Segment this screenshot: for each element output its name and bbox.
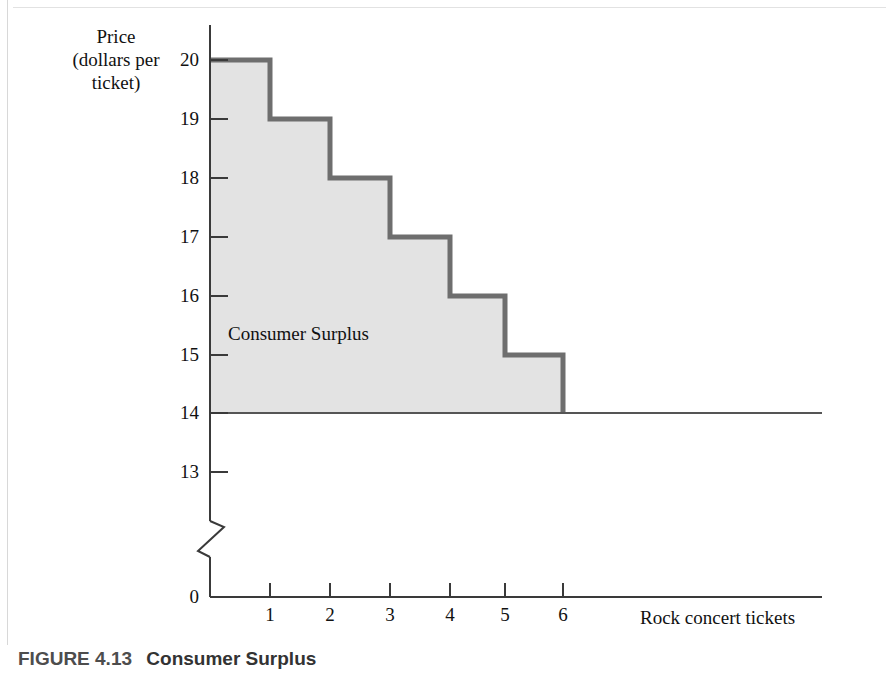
x-tick-label-2: 2	[318, 604, 342, 626]
plot-area: Price (dollars per ticket) 20 19 18 17 1…	[0, 0, 886, 645]
y-axis-title-line-3: ticket)	[46, 71, 186, 94]
y-tick-label-15: 15	[165, 344, 199, 366]
x-tick-label-1: 1	[258, 604, 282, 626]
figure-consumer-surplus: Price (dollars per ticket) 20 19 18 17 1…	[0, 0, 886, 679]
axis-break-zigzag	[198, 521, 224, 557]
consumer-surplus-annotation: Consumer Surplus	[228, 323, 369, 345]
x-tick-label-4: 4	[438, 604, 462, 626]
y-axis-title-line-1: Price	[46, 25, 186, 48]
x-axis-title: Rock concert tickets	[640, 607, 795, 629]
y-tick-label-0: 0	[165, 586, 199, 608]
y-tick-label-13: 13	[165, 461, 199, 483]
chart-svg	[0, 0, 886, 645]
x-tick-label-6: 6	[551, 604, 575, 626]
y-tick-label-20: 20	[165, 49, 199, 71]
figure-caption: FIGURE 4.13 Consumer Surplus	[18, 648, 316, 670]
x-tick-marks	[270, 583, 563, 597]
figure-caption-number: FIGURE 4.13	[18, 648, 132, 669]
y-tick-label-18: 18	[165, 167, 199, 189]
y-tick-label-19: 19	[165, 108, 199, 130]
x-tick-label-3: 3	[378, 604, 402, 626]
figure-caption-title: Consumer Surplus	[146, 648, 316, 669]
y-tick-label-17: 17	[165, 226, 199, 248]
y-tick-label-16: 16	[165, 285, 199, 307]
x-tick-label-5: 5	[493, 604, 517, 626]
y-tick-label-14: 14	[165, 402, 199, 424]
consumer-surplus-region	[210, 60, 563, 413]
